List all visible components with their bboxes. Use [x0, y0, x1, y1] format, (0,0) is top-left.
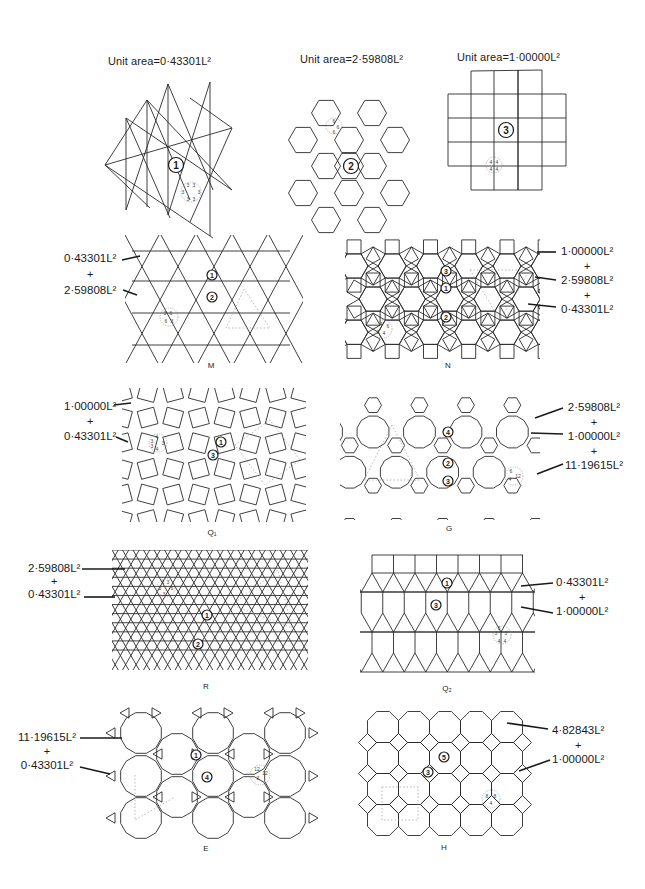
tiling-H-marker-5: 5 — [437, 750, 451, 764]
tiling-H-vertex-config: 8 8 4 — [480, 788, 502, 810]
area-label: 4·82843L² — [552, 723, 604, 738]
svg-text:4: 4 — [490, 800, 493, 806]
svg-text:8: 8 — [494, 793, 497, 799]
tiling-H-area-labels: 4·82843L² + 1·00000L² — [552, 723, 604, 767]
svg-text:3: 3 — [426, 769, 430, 776]
svg-text:8: 8 — [486, 793, 489, 799]
tiling-H-marker-3: 3 — [421, 765, 435, 779]
tiling-H-caption: H — [438, 843, 450, 852]
area-label: 1·00000L² — [552, 752, 604, 767]
tiling-H — [0, 0, 645, 889]
plus-sign: + — [575, 738, 581, 753]
svg-text:5: 5 — [442, 754, 446, 761]
